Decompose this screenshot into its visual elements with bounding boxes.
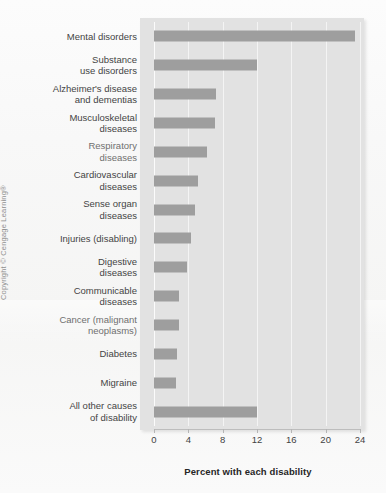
bar: [154, 146, 207, 157]
x-tick-mark-12: [257, 429, 258, 433]
category-label: Cardiovascular diseases: [0, 169, 137, 192]
category-label: Diabetes: [0, 348, 137, 360]
category-label: Mental disorders: [0, 31, 137, 43]
category-label: Substance use disorders: [0, 54, 137, 77]
x-tick-mark-24: [360, 429, 361, 433]
x-axis-title: Percent with each disability: [0, 466, 386, 477]
bar-row: [154, 368, 360, 397]
bar-row: [154, 311, 360, 340]
plot-area: [154, 22, 360, 426]
bar: [154, 348, 177, 359]
bar: [154, 319, 179, 330]
bar: [154, 31, 355, 42]
bar: [154, 175, 198, 186]
category-label: Digestive diseases: [0, 256, 137, 279]
x-tick-label: 12: [252, 434, 263, 445]
bar-row: [154, 224, 360, 253]
x-tick-mark-4: [188, 429, 189, 433]
bar-row: [154, 166, 360, 195]
x-tick-label: 24: [355, 434, 366, 445]
x-tick-label: 8: [220, 434, 225, 445]
bar-row: [154, 22, 360, 51]
bar-row: [154, 109, 360, 138]
x-tick-mark-8: [223, 429, 224, 433]
x-tick-mark-0: [154, 429, 155, 433]
x-tick-mark-20: [326, 429, 327, 433]
bar-row: [154, 253, 360, 282]
category-label: Injuries (disabling): [0, 233, 137, 245]
bar: [154, 262, 187, 273]
category-label: Communicable diseases: [0, 285, 137, 308]
bar: [154, 406, 257, 417]
category-label: Migraine: [0, 377, 137, 389]
x-tick-label: 4: [186, 434, 191, 445]
category-label: Respiratory diseases: [0, 140, 137, 163]
bar-row: [154, 51, 360, 80]
x-tick-label: 0: [151, 434, 156, 445]
bar-row: [154, 195, 360, 224]
bar: [154, 60, 257, 71]
bar-row: [154, 80, 360, 109]
bar: [154, 377, 176, 388]
bar-chart-figure: Copyright © Cengage Learning® Mental dis…: [0, 0, 386, 493]
bar: [154, 291, 179, 302]
bar-row: [154, 137, 360, 166]
bar: [154, 204, 195, 215]
category-label: Alzheimer's disease and dementias: [0, 83, 137, 106]
category-label: Cancer (malignant neoplasms): [0, 314, 137, 337]
x-tick-mark-16: [291, 429, 292, 433]
bar-row: [154, 339, 360, 368]
bar-row: [154, 397, 360, 426]
bar: [154, 233, 191, 244]
x-tick-label: 20: [320, 434, 331, 445]
bar: [154, 89, 216, 100]
bar-row: [154, 282, 360, 311]
category-label: Musculoskeletal diseases: [0, 112, 137, 135]
bar: [154, 117, 215, 128]
category-label: All other causes of disability: [0, 400, 137, 423]
category-label: Sense organ diseases: [0, 198, 137, 221]
x-tick-label: 16: [286, 434, 297, 445]
bar-series: [154, 22, 360, 426]
gridline-24: [360, 22, 361, 426]
